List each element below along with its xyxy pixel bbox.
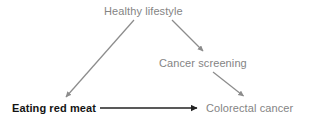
edge-cancer-screening-to-colorectal-cancer — [213, 72, 244, 96]
node-eating-red-meat: Eating red meat — [12, 102, 96, 114]
node-cancer-screening: Cancer screening — [159, 57, 247, 69]
causal-diagram: Healthy lifestyle Cancer screening Eatin… — [0, 0, 313, 124]
edge-healthy-lifestyle-to-eating-red-meat — [66, 20, 134, 97]
edge-healthy-lifestyle-to-cancer-screening — [172, 20, 203, 51]
node-colorectal-cancer: Colorectal cancer — [206, 102, 293, 114]
node-healthy-lifestyle: Healthy lifestyle — [104, 5, 183, 17]
